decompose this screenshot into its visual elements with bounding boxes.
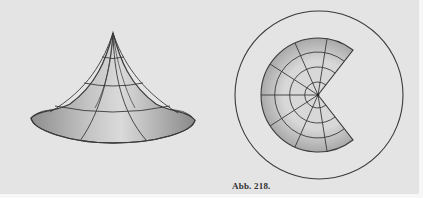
figure-drawing bbox=[0, 0, 423, 198]
cone-surface bbox=[31, 33, 195, 143]
developed-sector bbox=[235, 11, 403, 179]
page: Abb. 218. bbox=[0, 0, 423, 198]
figure-caption: Abb. 218. bbox=[232, 181, 271, 191]
